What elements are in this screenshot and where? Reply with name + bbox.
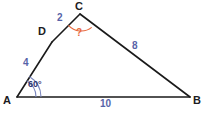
segment-cb-line	[80, 14, 190, 97]
side-label-ab: 10	[100, 99, 111, 109]
angle-label-c-unknown: ?	[76, 28, 82, 38]
geometry-diagram: A B C D 4 2 8 10 60° ?	[0, 0, 205, 113]
angle-label-a: 60°	[28, 80, 42, 89]
vertex-label-c: C	[75, 1, 83, 12]
vertex-label-a: A	[3, 95, 11, 106]
triangle-figure	[0, 0, 205, 113]
side-label-ad: 4	[23, 58, 29, 68]
side-label-dc: 2	[57, 13, 63, 23]
side-label-cb: 8	[132, 41, 138, 51]
vertex-label-b: B	[193, 95, 201, 106]
vertex-label-d: D	[38, 26, 46, 37]
